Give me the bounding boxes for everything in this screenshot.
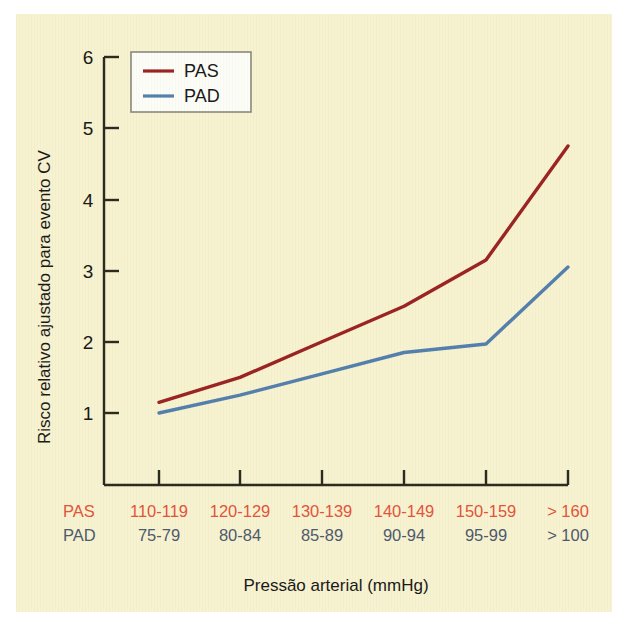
legend-label-pas: PAS xyxy=(184,61,219,81)
x-category-pad-0: 75-79 xyxy=(138,526,180,544)
y-axis-title: Risco relativo ajustado para evento CV xyxy=(35,149,54,444)
x-axis-ticks xyxy=(159,470,568,485)
legend-label-pad: PAD xyxy=(184,86,220,106)
line-chart: 6 5 4 3 2 1 Risco relativo ajustado para… xyxy=(16,14,612,612)
x-category-pas-4: 150-159 xyxy=(456,502,517,520)
x-category-pad-2: 85-89 xyxy=(301,526,343,544)
x-category-pad-1: 80-84 xyxy=(219,526,261,544)
y-tick-label-6: 6 xyxy=(83,47,94,68)
y-tick-label-1: 1 xyxy=(83,403,94,424)
x-category-pas-2: 130-139 xyxy=(292,502,353,520)
x-category-pas-5: > 160 xyxy=(547,502,589,520)
xlabel-row-label-pas: PAS xyxy=(63,502,95,520)
x-category-pad-3: 90-94 xyxy=(383,526,425,544)
y-tick-label-4: 4 xyxy=(83,190,94,211)
series-line-pad xyxy=(159,267,568,413)
x-axis-title: Pressão arterial (mmHg) xyxy=(243,576,428,595)
y-tick-label-5: 5 xyxy=(83,118,94,139)
x-category-pad-4: 95-99 xyxy=(465,526,507,544)
chart-legend: PAS PAD xyxy=(131,52,251,112)
figure-container: 6 5 4 3 2 1 Risco relativo ajustado para… xyxy=(0,0,628,626)
y-tick-label-2: 2 xyxy=(83,332,94,353)
x-category-pad-5: > 100 xyxy=(547,526,589,544)
chart-plate: 6 5 4 3 2 1 Risco relativo ajustado para… xyxy=(16,14,612,612)
x-category-pas-0: 110-119 xyxy=(130,502,188,520)
y-tick-label-3: 3 xyxy=(83,261,94,282)
x-category-pas-3: 140-149 xyxy=(374,502,435,520)
x-category-pas-1: 120-129 xyxy=(210,502,271,520)
y-axis-ticks xyxy=(104,57,119,413)
xlabel-row-label-pad: PAD xyxy=(63,526,96,544)
